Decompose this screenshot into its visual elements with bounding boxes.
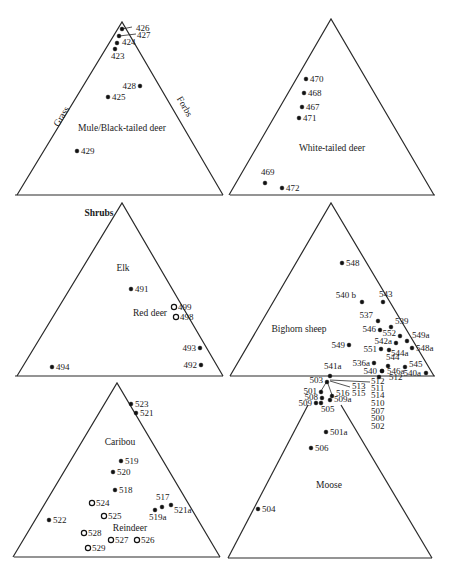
data-point [81,530,86,535]
point-label: 524 [96,498,110,508]
point-label: 549a [412,330,430,340]
data-point [47,518,51,522]
point-label: 494 [56,362,70,372]
data-point [340,261,344,265]
data-point [108,537,113,542]
axis-label-forbs: Forbs [175,95,195,119]
point-label: 522 [53,515,67,525]
point-label: 425 [112,92,126,102]
point-label: 498 [180,312,194,322]
data-point [300,105,304,109]
point-label: 540 [364,366,378,376]
point-label: 537 [360,310,374,320]
axis-label-shrubs: Shrubs [84,208,113,218]
data-points: 4264274244234284254294704684674714694724… [47,23,433,553]
data-point [328,374,332,378]
data-point [325,380,329,384]
data-point [115,41,119,45]
data-point [360,300,364,304]
data-point [169,503,173,507]
data-point [50,365,54,369]
point-label: 470 [310,74,324,84]
point-label: 542a [375,336,393,346]
panel-title: Elk [116,263,129,273]
point-label: 520 [117,467,131,477]
point-label: 472 [286,183,300,193]
data-point [106,95,110,99]
point-label: 541a [324,361,342,371]
data-point [120,27,124,31]
data-point [410,346,414,350]
data-point [111,470,115,474]
data-point [314,401,318,405]
data-point [117,34,121,38]
point-label: 544 [386,352,400,362]
point-label: 519 [125,456,139,466]
data-point [328,398,332,402]
triangles [13,19,434,558]
point-label: 512 [389,372,403,382]
data-point [129,287,133,291]
data-point [347,343,351,347]
point-label: 423 [111,51,125,61]
point-label: 519a [149,512,167,522]
point-label: 549 [332,340,346,350]
data-point [256,507,260,511]
point-label: 493 [183,343,197,353]
triangle-moose [228,405,308,558]
point-label: 546 [363,324,377,334]
triangle-white-tailed-deer [229,19,434,195]
panel-subtitle: Red deer [133,308,168,318]
point-label: 521 [140,408,154,418]
point-label: 548 [346,258,360,268]
point-label: 501a [330,427,348,437]
data-point [113,488,117,492]
point-label: 517 [156,492,170,502]
panel-title: White-tailed deer [299,143,366,153]
data-point [309,446,313,450]
point-label: 526 [141,535,155,545]
panel-subtitle: Reindeer [113,523,148,533]
data-point [405,339,409,343]
panel-title: Mule/Black-tailed deer [78,123,167,133]
data-point [263,181,267,185]
point-label: 471 [303,113,317,123]
point-label: 529 [92,543,106,553]
point-label: 543 [379,289,393,299]
point-label: 528 [88,528,102,538]
point-label: 429 [81,146,95,156]
data-point [297,116,301,120]
data-point [424,371,428,375]
data-point [75,149,79,153]
data-point [101,513,106,518]
data-point [378,328,382,332]
point-label: 540a [404,368,422,378]
data-point [379,347,383,351]
point-label: 539 [395,316,409,326]
data-point [324,430,328,434]
point-label: 467 [306,102,320,112]
point-label: 509 [299,398,313,408]
data-point [199,363,203,367]
point-label: 509a [334,394,352,404]
data-point [89,500,94,505]
point-label: 525 [108,511,122,521]
point-label: 492 [184,360,198,370]
point-label: 503 [310,375,324,385]
data-point [394,341,398,345]
data-point [381,300,385,304]
point-label: 527 [115,535,129,545]
point-label: 502 [371,421,385,431]
data-point [119,459,123,463]
panel-title: Bighorn sheep [271,324,326,334]
point-label: 504 [262,504,276,514]
data-point [376,319,380,323]
data-point [372,361,376,365]
point-label: 468 [308,88,322,98]
data-point [85,545,90,550]
point-label: 551 [364,344,378,354]
data-point [129,402,133,406]
point-label: 491 [135,284,149,294]
data-point [173,314,178,319]
data-point [134,537,139,542]
